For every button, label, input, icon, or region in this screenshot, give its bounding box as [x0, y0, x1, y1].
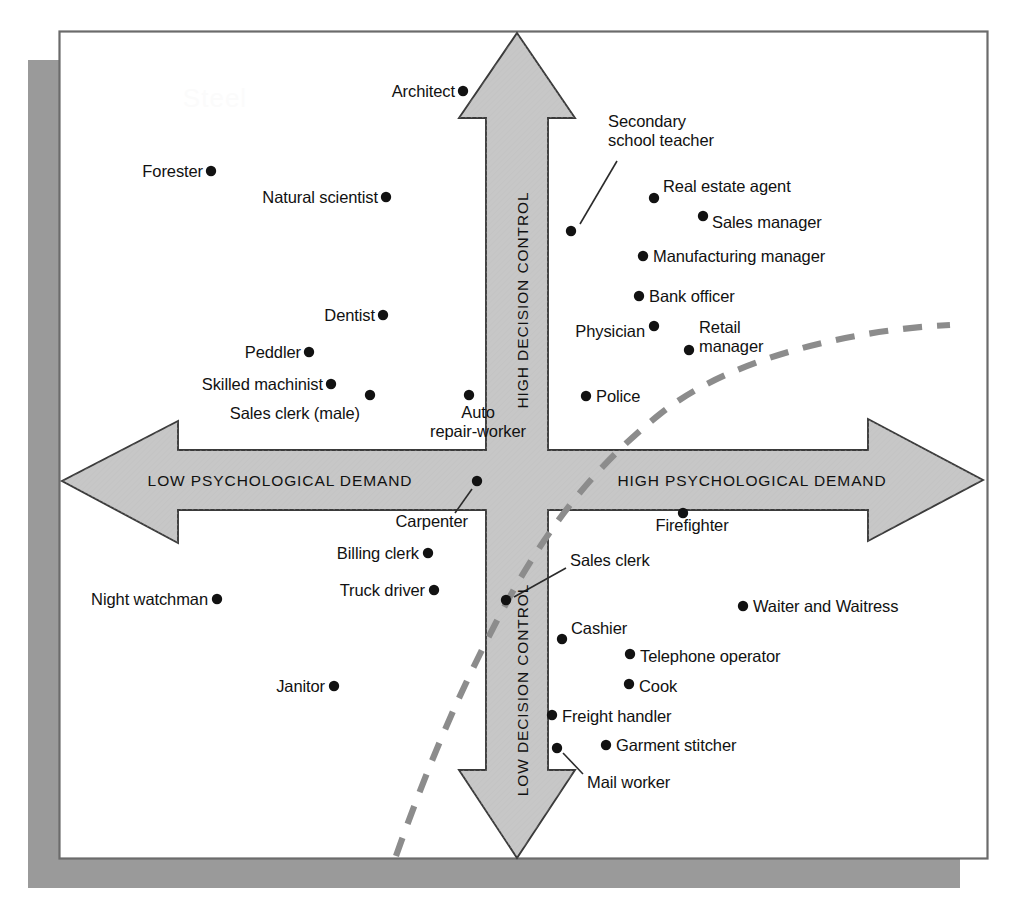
- data-point-dot: [625, 649, 635, 659]
- occupation-label: Manufacturing manager: [653, 247, 825, 265]
- data-point-dot: [698, 211, 708, 221]
- data-point-dot: [212, 594, 222, 604]
- data-point-dot: [684, 345, 694, 355]
- diagram-graphics: [0, 0, 1017, 903]
- axis-label-high-decision-control: HIGH DECISION CONTROL: [514, 192, 532, 409]
- data-point-dot: [423, 548, 433, 558]
- occupation-label: Truck driver: [340, 581, 425, 599]
- data-point-dot: [329, 681, 339, 691]
- occupation-label: Mail worker: [587, 773, 670, 791]
- data-point-dot: [464, 390, 474, 400]
- occupation-label: Skilled machinist: [202, 375, 323, 393]
- occupation-label: Dentist: [324, 306, 375, 324]
- occupation-label: Sales manager: [712, 213, 822, 231]
- occupation-label: Forester: [142, 162, 203, 180]
- occupation-label: Telephone operator: [640, 647, 780, 665]
- data-point-dot: [304, 347, 314, 357]
- occupation-label: Sales clerk: [570, 551, 650, 569]
- occupation-label: Physician: [575, 322, 645, 340]
- data-point-dot: [557, 634, 567, 644]
- occupation-label: Billing clerk: [337, 544, 419, 562]
- data-point-dot: [649, 321, 659, 331]
- occupation-label: Police: [596, 387, 640, 405]
- data-point-dot: [472, 476, 482, 486]
- occupation-label: Firefighter: [655, 516, 728, 534]
- data-point-dot: [552, 743, 562, 753]
- axis-label-high-psychological-demand: HIGH PSYCHOLOGICAL DEMAND: [617, 472, 886, 490]
- data-point-dot: [501, 595, 511, 605]
- data-point-dot: [326, 379, 336, 389]
- ghost-watermark: Steel: [183, 83, 247, 114]
- axis-label-low-psychological-demand: LOW PSYCHOLOGICAL DEMAND: [148, 472, 413, 490]
- data-point-dot: [458, 86, 468, 96]
- data-point-dot: [649, 193, 659, 203]
- data-point-dot: [638, 251, 648, 261]
- occupation-label: Garment stitcher: [616, 736, 736, 754]
- data-point-dot: [429, 585, 439, 595]
- occupation-label: Waiter and Waitress: [753, 597, 898, 615]
- data-point-dot: [365, 390, 375, 400]
- occupation-label: Retailmanager: [699, 318, 763, 356]
- occupation-label: Carpenter: [396, 512, 468, 530]
- data-point-dot: [738, 601, 748, 611]
- occupation-label: Night watchman: [91, 590, 208, 608]
- data-point-dot: [378, 310, 388, 320]
- occupation-label: Secondaryschool teacher: [608, 112, 714, 150]
- occupation-label: Bank officer: [649, 287, 735, 305]
- data-point-dot: [624, 679, 634, 689]
- occupation-label: Peddler: [245, 343, 301, 361]
- axis-label-low-decision-control: LOW DECISION CONTROL: [514, 584, 532, 797]
- data-point-dot: [381, 192, 391, 202]
- data-point-dot: [547, 710, 557, 720]
- data-point-dot: [566, 226, 576, 236]
- data-point-dot: [206, 166, 216, 176]
- occupation-label: Real estate agent: [663, 177, 791, 195]
- occupation-label: Architect: [392, 82, 455, 100]
- occupation-label: Janitor: [276, 677, 325, 695]
- occupation-label: Natural scientist: [262, 188, 378, 206]
- occupation-label: Cook: [639, 677, 677, 695]
- data-point-dot: [601, 740, 611, 750]
- occupation-label: Sales clerk (male): [230, 404, 360, 422]
- data-point-dot: [634, 291, 644, 301]
- occupation-label: Freight handler: [562, 707, 671, 725]
- occupation-label: Autorepair-worker: [430, 403, 526, 441]
- data-point-dot: [581, 391, 591, 401]
- figure-canvas: Steel HIGH DECISION CONTROL LOW DECISION…: [0, 0, 1017, 903]
- occupation-label: Cashier: [571, 619, 627, 637]
